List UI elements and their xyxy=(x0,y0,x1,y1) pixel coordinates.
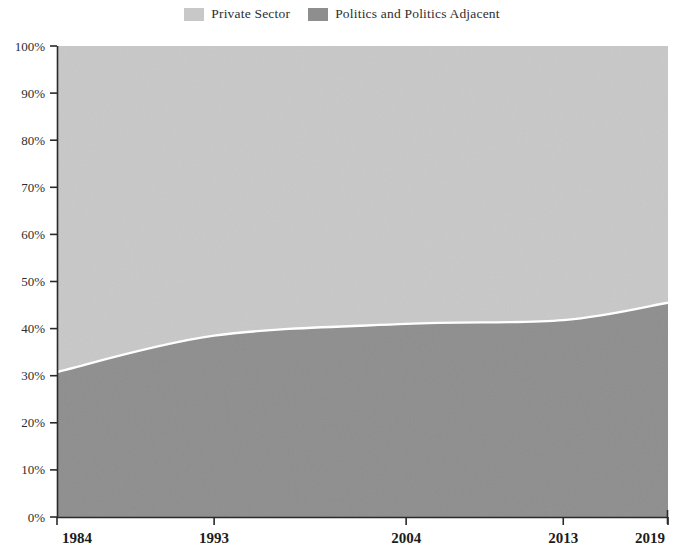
y-tick-label: 30% xyxy=(21,368,45,383)
legend-item-private-sector[interactable]: Private Sector xyxy=(184,6,290,22)
legend-label-private-sector: Private Sector xyxy=(211,6,290,22)
x-tick-label: 2019 xyxy=(635,530,665,546)
y-tick-label: 70% xyxy=(21,180,45,195)
x-tick-label: 2004 xyxy=(391,530,422,546)
plot-svg: 0%10%20%30%40%50%60%70%80%90%100% 198419… xyxy=(0,28,684,546)
y-tick-label: 10% xyxy=(21,462,45,477)
y-tick-label: 20% xyxy=(21,415,45,430)
area-series-group xyxy=(57,46,668,517)
y-tick-label: 80% xyxy=(21,133,45,148)
y-tick-label: 60% xyxy=(21,227,45,242)
legend-label-politics: Politics and Politics Adjacent xyxy=(335,6,500,22)
y-tick-label: 40% xyxy=(21,321,45,336)
legend-swatch-politics xyxy=(308,8,328,21)
paper-grain-overlay xyxy=(57,46,668,517)
x-tick-label: 1984 xyxy=(62,530,93,546)
legend-item-politics[interactable]: Politics and Politics Adjacent xyxy=(308,6,500,22)
stacked-area-chart: Private Sector Politics and Politics Adj… xyxy=(0,0,684,546)
x-tick-label: 2013 xyxy=(548,530,578,546)
x-tick-label: 1993 xyxy=(199,530,229,546)
y-tick-label: 90% xyxy=(21,86,45,101)
y-tick-label: 50% xyxy=(21,274,45,289)
legend-swatch-private-sector xyxy=(184,8,204,21)
y-tick-label: 100% xyxy=(15,39,46,54)
chart-legend: Private Sector Politics and Politics Adj… xyxy=(0,0,684,28)
plot-area-wrapper: 0%10%20%30%40%50%60%70%80%90%100% 198419… xyxy=(0,28,684,546)
y-tick-label: 0% xyxy=(28,510,46,525)
x-axis-ticks: 19841993200420132019 xyxy=(57,517,668,546)
y-axis-ticks: 0%10%20%30%40%50%60%70%80%90%100% xyxy=(15,39,57,525)
